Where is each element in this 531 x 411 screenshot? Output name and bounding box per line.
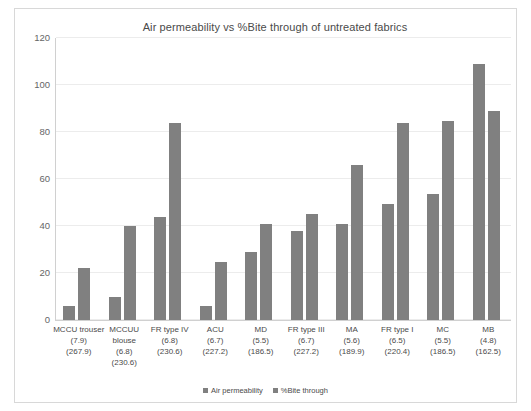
x-axis-line: [55, 320, 511, 321]
x-axis-label-line: (162.5): [458, 346, 520, 357]
legend-item[interactable]: Air permeability: [203, 386, 263, 395]
y-axis-tick-label: 20: [39, 267, 50, 278]
chart-screenshot: Air permeability vs %Bite through of unt…: [0, 0, 531, 411]
bar-group: [375, 38, 421, 320]
bar: [291, 231, 303, 320]
y-axis-tick-label: 60: [39, 173, 50, 184]
legend-label: %Bite through: [281, 386, 328, 395]
bar-group: [56, 38, 102, 320]
bar: [442, 121, 454, 320]
legend-item[interactable]: %Bite through: [273, 386, 328, 395]
x-axis-label-line: (230.6): [94, 357, 156, 368]
bar-group: [420, 38, 466, 320]
bar: [488, 111, 500, 320]
bar: [427, 194, 439, 320]
bar: [78, 268, 90, 320]
bar: [154, 217, 166, 320]
legend-swatch-icon: [203, 388, 208, 393]
bar-group: [147, 38, 193, 320]
legend-label: Air permeability: [211, 386, 263, 395]
bar: [397, 123, 409, 320]
bar: [245, 252, 257, 320]
bar-group: [329, 38, 375, 320]
bar-group: [284, 38, 330, 320]
bar: [351, 165, 363, 320]
legend-swatch-icon: [273, 388, 278, 393]
bar: [382, 204, 394, 320]
y-axis-tick-label: 120: [34, 32, 50, 43]
bar: [124, 226, 136, 320]
y-axis-tick-label: 100: [34, 79, 50, 90]
y-axis-tick-label: 40: [39, 220, 50, 231]
bar: [306, 214, 318, 320]
y-axis-tick-label: 0: [45, 314, 50, 325]
bar: [473, 64, 485, 320]
bar: [215, 262, 227, 320]
x-axis-label-line: MB: [458, 324, 520, 335]
bar-group: [466, 38, 512, 320]
bar-group: [193, 38, 239, 320]
bar: [63, 306, 75, 320]
bar-group: [102, 38, 148, 320]
x-axis-labels: MCCU trouser(7.9)(267.9)MCCUUblouse(6.8)…: [56, 324, 511, 384]
y-axis-tick-label: 80: [39, 126, 50, 137]
x-axis-label-line: (4.8): [458, 335, 520, 346]
bar: [200, 306, 212, 320]
bar: [260, 224, 272, 320]
plot-area: 020406080100120: [56, 38, 511, 320]
bar-group: [238, 38, 284, 320]
chart-title: Air permeability vs %Bite through of unt…: [60, 21, 490, 33]
bar: [336, 224, 348, 320]
x-axis-group-label: MB(4.8)(162.5): [458, 324, 520, 357]
chart-legend: Air permeability%Bite through: [0, 386, 531, 395]
bar: [169, 123, 181, 320]
bar: [109, 297, 121, 321]
